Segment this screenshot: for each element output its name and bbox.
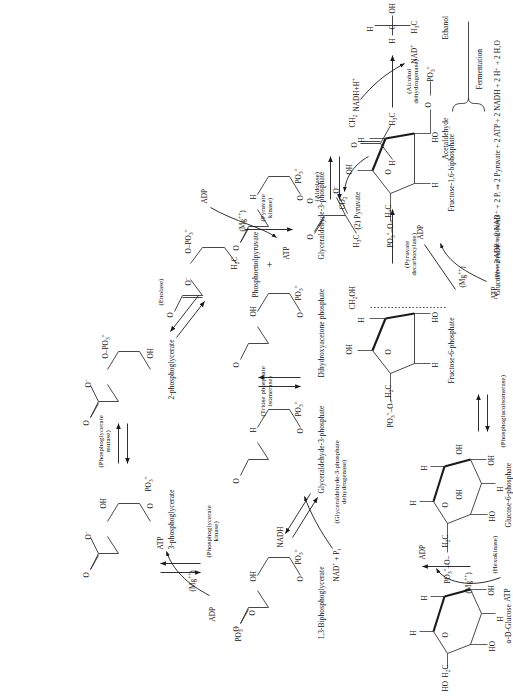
- cofactor-mg-hexokinase: (Mg++): [462, 572, 472, 593]
- atom-o-minus-pep: O–: [182, 277, 192, 285]
- glycolysis-figure: HO HO H2C H H O OH H OH α-D-Glucose ATP …: [0, 0, 513, 699]
- atom-oh-fbp: OH: [345, 163, 353, 174]
- metabolite-label-g3p-lower: Glyceraldehyde-3-phosphate: [316, 405, 325, 493]
- atom-po3-pg3: PO3=: [142, 476, 154, 491]
- atom-h-f6p-1: H: [431, 362, 439, 367]
- atom-ch2oh-f6p: CH2OH: [348, 286, 357, 309]
- enzyme-label-pgm: (Phosphoglyceratemutase): [96, 415, 111, 467]
- metabolite-label-f6p: Fructose-6-phosphate: [446, 317, 455, 383]
- atom-ho-glucose-1: HO: [488, 640, 496, 651]
- pgm-arrows: [118, 423, 127, 463]
- cofactor-adp-pgk: ADP: [208, 606, 216, 621]
- cofactor-adp-pk: ADP: [200, 188, 208, 203]
- atom-h-fbp-1: H: [431, 182, 439, 187]
- metabolite-label-g6p: Glucose-6-phosphate: [503, 462, 512, 527]
- enzyme-label-hexokinase: (Hexokinase): [490, 535, 497, 573]
- atom-o-g3p-upper: O: [232, 245, 240, 250]
- atom-ho-g6p: HO: [488, 510, 496, 521]
- plus-sign: +: [262, 261, 274, 267]
- cofactor-nad-pi: NAD+ + Pi: [330, 549, 342, 582]
- atom-oh-g6p-2: OH: [455, 443, 463, 454]
- byproduct-co2: CO2: [338, 196, 347, 209]
- acetaldehyde-chain: [344, 125, 392, 191]
- enzyme-label-enolase: (Enolase): [156, 278, 163, 305]
- pg3-chain: [90, 503, 150, 569]
- atom-oh-pg2: OH: [146, 347, 154, 358]
- metabolite-label-bpg: 1,3-Biphosphoglycerate: [316, 566, 325, 639]
- atom-o-pg2-1: O: [82, 420, 90, 425]
- summary-equation: Glucose + 2 ADP + 2 NAD⁺ + 2 Pᵢ ⇒ 2 Pyru…: [492, 40, 501, 295]
- atom-ch2-fbp: CH2: [348, 114, 357, 127]
- atom-po3-dhap: PO3=: [292, 285, 304, 300]
- enzyme-label-adh: (Alcoholdehydrogenase): [404, 59, 419, 103]
- enzyme-label-pgi: (Phosphoglucoisomerase): [498, 374, 505, 447]
- atom-h-glucose-2: H: [420, 595, 428, 600]
- atom-po3-g3p-upper: PO3=: [292, 168, 304, 183]
- enzyme-label-pgk: (Phosphoglyceratekinase): [204, 505, 219, 557]
- atom-o-ring-g6p: O: [441, 502, 449, 507]
- atom-po3-f6p: PO3=–O–: [384, 399, 396, 427]
- adh-arrow: [360, 55, 404, 107]
- atom-po3-bpg-2: PO3=: [232, 626, 244, 641]
- cofactor-adp-hexokinase: ADP: [418, 544, 426, 559]
- atom-h-acetald: H: [388, 160, 396, 165]
- atom-o-pyr-2: O: [306, 198, 314, 203]
- cofactor-adp-pfk: ADP: [416, 224, 424, 239]
- atom-h-f6p-2: H: [357, 317, 365, 322]
- atom-oh-ethanol: OH: [388, 2, 396, 13]
- cofactor-nadh-gapdh: NADH: [276, 526, 284, 547]
- atom-o-minus-pg3: O–: [82, 531, 92, 539]
- atom-h3c-ethanol: H3C: [410, 20, 419, 33]
- atom-h2c-f6p: H2C: [384, 384, 393, 397]
- atom-oh-dhap: OH: [249, 305, 257, 316]
- metabolite-label-pyruvate: (2) Pyruvate: [352, 191, 361, 229]
- enzyme-label-pk: (Pyruvatekinase): [258, 194, 273, 221]
- metabolite-label-acetaldehyde: Acetaldehyde: [440, 117, 449, 159]
- atom-h2c-fbp: H2C: [384, 204, 393, 217]
- atom-o-ring-glucose: O: [441, 632, 449, 637]
- atom-o-ring-fbp: O: [384, 169, 392, 174]
- pgk-arrows: [160, 551, 209, 595]
- atom-o-minus-pyr: O–: [330, 185, 340, 193]
- atom-po3-fbp-1: PO3=–O–: [384, 219, 396, 247]
- cofactor-mg-pk: (Mg++): [236, 210, 246, 231]
- atom-h3c-acetald: H3C: [388, 112, 397, 125]
- atom-o-g3p-lower: O: [232, 478, 240, 483]
- cofactor-mg-pgk: (Mg++): [186, 570, 196, 591]
- atom-oh-g6p-1: OH: [487, 454, 495, 465]
- atom-o-chain-bpg: O: [296, 576, 304, 581]
- hexokinase-arrow: [422, 566, 500, 583]
- atom-h-ethanol-2: H: [366, 26, 374, 31]
- metabolite-label-ethanol: Ethanol: [440, 15, 449, 39]
- atom-o-pg3-1: O: [82, 572, 90, 577]
- pfk-arrow: [424, 243, 486, 289]
- atom-oh-f6p: OH: [345, 343, 353, 354]
- atom-o-chain-dhap: O: [296, 312, 304, 317]
- structure-lines: [0, 0, 513, 699]
- pgi-arrows: [478, 394, 487, 431]
- atom-h2c-pep: H2C: [230, 256, 239, 269]
- atom-o-chain-pg3: O: [146, 503, 154, 508]
- atom-h3c-pyr: H3C: [352, 234, 361, 247]
- atom-h-g3p-upper: H: [249, 194, 257, 199]
- atom-oh-bpg: OH: [249, 570, 257, 581]
- atom-h-g3p-lower: H: [249, 427, 257, 432]
- atom-oh-glucose-1: OH: [487, 584, 495, 595]
- dhap-chain: [240, 293, 300, 359]
- metabolite-label-g3p-upper: Glyceraldehyde-3-phosphate: [316, 171, 325, 259]
- atom-h-fbp-2: H: [357, 137, 365, 142]
- atom-h-ethanol-1: H: [388, 38, 396, 43]
- metabolite-label-glucose: α-D-Glucose: [503, 604, 512, 643]
- atom-o-link-fbp: O: [424, 102, 432, 107]
- atom-oh-pg3: OH: [99, 497, 107, 508]
- cofactor-mg-pfk: (Mg++): [456, 266, 466, 287]
- atom-h-glucose-1: H: [409, 630, 417, 635]
- atom-oh-glucose-2: OH: [455, 488, 463, 499]
- atom-o-acetald: O: [350, 142, 358, 147]
- enzyme-label-tpi: (Triose phosphateisomerase): [258, 366, 273, 416]
- atom-o-pep-1: O: [166, 312, 174, 317]
- atom-o-chain-g3p-lower: O: [296, 428, 304, 433]
- cofactor-nadh-h: NADH+H+: [350, 77, 360, 111]
- atom-o-dhap: O: [232, 362, 240, 367]
- atom-o-link-pg2: O–PO3=: [99, 334, 111, 358]
